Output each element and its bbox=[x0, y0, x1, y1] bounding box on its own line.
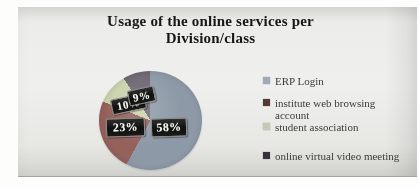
legend-label: institute web browsing account bbox=[275, 97, 393, 121]
legend-label: online virtual video meeting bbox=[275, 150, 399, 162]
legend-swatch-student-association-icon bbox=[263, 123, 270, 130]
chart-title-line2: Division/class bbox=[18, 30, 403, 47]
legend-label: student association bbox=[275, 121, 358, 133]
legend-item-erp-login: ERP Login bbox=[263, 75, 324, 87]
legend-swatch-online-video-meeting-icon bbox=[263, 152, 270, 159]
chart-title-line1: Usage of the online services per bbox=[18, 13, 403, 30]
legend-item-student-association: student association bbox=[263, 121, 358, 133]
legend-swatch-erp-login-icon bbox=[263, 77, 270, 84]
legend-swatch-institute-web-browsing-icon bbox=[263, 99, 270, 106]
chart-title: Usage of the online services per Divisio… bbox=[18, 13, 403, 47]
chart-figure: Usage of the online services per Divisio… bbox=[18, 7, 417, 177]
legend-label: ERP Login bbox=[275, 75, 324, 87]
screenshot-root: { "chart_data": { "type": "pie", "title"… bbox=[0, 0, 419, 187]
data-label-institute-web-browsing: 23% bbox=[106, 117, 146, 137]
data-label-erp-login: 58% bbox=[151, 117, 188, 137]
legend-item-online-video-meeting: online virtual video meeting bbox=[263, 150, 399, 162]
legend-item-institute-web-browsing: institute web browsing account bbox=[263, 97, 393, 121]
